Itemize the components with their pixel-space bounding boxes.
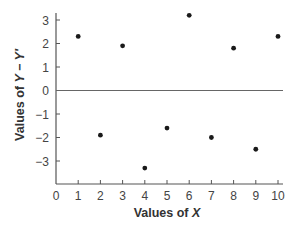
- data-point: [76, 34, 81, 39]
- data-points: [76, 13, 281, 171]
- y-tick-label: 3: [42, 14, 49, 28]
- y-tick-label: −3: [35, 155, 49, 169]
- data-point: [98, 133, 103, 138]
- x-tick-label: 8: [230, 189, 237, 203]
- x-axis: 012345678910: [53, 180, 285, 203]
- data-point: [209, 135, 214, 140]
- data-point: [253, 147, 258, 152]
- x-tick-label: 6: [186, 189, 193, 203]
- x-tick-label: 4: [141, 189, 148, 203]
- data-point: [231, 46, 236, 51]
- x-tick-label: 7: [208, 189, 215, 203]
- data-point: [165, 126, 170, 131]
- y-tick-label: 2: [42, 37, 49, 51]
- data-point: [142, 166, 147, 171]
- data-point: [120, 43, 125, 48]
- y-axis-title: Values of Y − Y′: [13, 48, 27, 141]
- data-point: [187, 13, 192, 18]
- x-tick-label: 9: [252, 189, 259, 203]
- x-tick-label: 1: [75, 189, 82, 203]
- x-tick-label: 10: [271, 189, 285, 203]
- y-tick-label: 1: [42, 61, 49, 75]
- scatter-chart: 3210−1−2−3 012345678910 Values of X Valu…: [0, 0, 303, 228]
- x-tick-label: 0: [53, 189, 60, 203]
- x-tick-label: 5: [164, 189, 171, 203]
- data-point: [276, 34, 281, 39]
- y-tick-label: 0: [42, 84, 49, 98]
- y-axis: 3210−1−2−3: [35, 13, 60, 184]
- y-tick-label: −2: [35, 131, 49, 145]
- x-tick-label: 2: [97, 189, 104, 203]
- x-tick-label: 3: [119, 189, 126, 203]
- x-axis-title: Values of X: [134, 206, 201, 220]
- y-tick-label: −1: [35, 108, 49, 122]
